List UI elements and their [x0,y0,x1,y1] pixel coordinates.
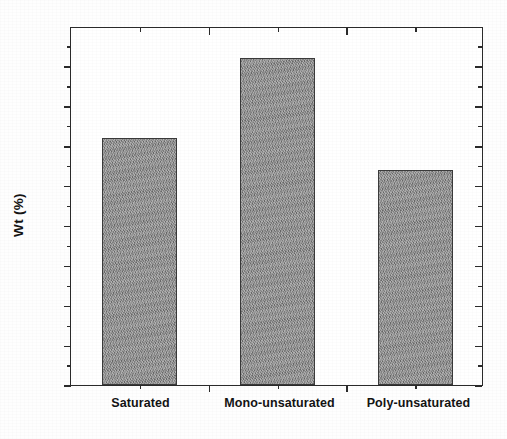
y-major-tick [64,106,71,108]
x-major-tick-top [346,28,348,35]
y-major-tick-right [475,106,482,108]
x-minor-tick [415,385,416,389]
y-minor-tick-right [478,206,482,207]
x-minor-tick-top [278,28,279,32]
y-minor-tick [67,365,71,366]
y-major-tick-right [475,346,482,348]
y-major-tick-right [475,385,482,387]
y-minor-tick-right [478,86,482,87]
y-major-tick-right [475,226,482,228]
y-major-tick-right [475,66,482,68]
y-minor-tick-right [478,166,482,167]
y-minor-tick-right [478,326,482,327]
y-major-tick-right [475,146,482,148]
y-major-tick [64,306,71,308]
y-minor-tick-right [478,365,482,366]
x-minor-tick [278,385,279,389]
y-major-tick [64,385,71,387]
x-minor-tick-top [415,28,416,32]
y-minor-tick-right [478,246,482,247]
y-axis-title: Wt (%) [11,193,26,237]
x-major-tick [209,385,211,392]
y-major-tick [64,346,71,348]
y-major-tick-right [475,266,482,268]
x-category-label-poly-unsaturated: Poly-unsaturated [367,396,471,410]
bar-chart-figure: Wt (%) 0 5 10 15 20 25 30 35 40 45 [0,0,507,439]
y-major-tick [64,66,71,68]
y-major-tick [64,266,71,268]
x-minor-tick-top [140,28,141,32]
y-minor-tick [67,206,71,207]
x-category-label-mono-unsaturated: Mono-unsaturated [224,396,335,410]
x-major-tick [346,385,348,392]
y-minor-tick [67,286,71,287]
bar-mono-unsaturated [240,58,315,385]
y-minor-tick [67,126,71,127]
x-major-tick-top [209,28,211,35]
bar-poly-unsaturated [378,170,453,385]
y-major-tick [64,226,71,228]
y-major-tick [64,146,71,148]
y-minor-tick [67,166,71,167]
y-major-tick-right [475,306,482,308]
bar-saturated [102,138,177,385]
plot-area [70,27,483,386]
y-minor-tick-right [478,126,482,127]
y-minor-tick-right [478,286,482,287]
y-minor-tick [67,246,71,247]
x-category-label-saturated: Saturated [111,396,170,410]
y-major-tick-right [475,186,482,188]
y-minor-tick [67,86,71,87]
y-minor-tick [67,326,71,327]
y-major-tick [64,186,71,188]
y-minor-tick [67,46,71,47]
y-minor-tick-right [478,46,482,47]
x-minor-tick [140,385,141,389]
